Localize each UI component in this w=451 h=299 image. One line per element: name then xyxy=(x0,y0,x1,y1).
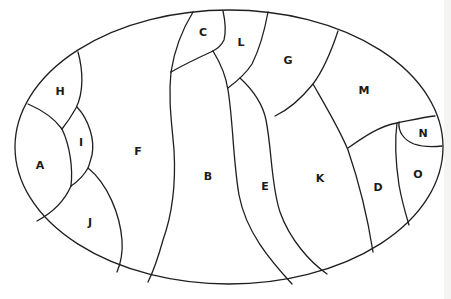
boundary-g-m xyxy=(275,31,338,116)
region-label-o: O xyxy=(413,168,422,181)
boundary-b-e xyxy=(213,51,292,284)
boundary-a-i xyxy=(62,129,72,186)
boundary-h-f xyxy=(62,52,82,129)
diagram-svg: A B C D E F G H I J K L M N O xyxy=(0,0,451,299)
boundary-a-j xyxy=(37,186,71,221)
boundary-c-l xyxy=(213,11,225,51)
region-label-i: I xyxy=(79,136,83,149)
boundary-k-d xyxy=(313,84,373,252)
region-label-h: H xyxy=(55,85,64,98)
region-label-m: M xyxy=(359,84,370,97)
boundary-d-o xyxy=(396,123,409,225)
region-label-d: D xyxy=(373,181,382,194)
region-label-e: E xyxy=(261,180,269,193)
region-label-b: B xyxy=(204,170,212,183)
paper-edge xyxy=(444,0,451,299)
region-label-f: F xyxy=(134,145,142,158)
boundary-f-b xyxy=(148,72,175,282)
boundary-e-k xyxy=(240,78,327,274)
region-label-c: C xyxy=(199,26,207,39)
region-label-l: L xyxy=(237,36,244,49)
boundary-h-a xyxy=(28,104,62,129)
region-label-n: N xyxy=(418,127,427,140)
region-label-g: G xyxy=(283,54,292,67)
region-label-j: J xyxy=(87,216,92,229)
region-map-diagram: A B C D E F G H I J K L M N O xyxy=(0,0,451,299)
boundary-c-b xyxy=(171,51,213,72)
boundary-l-g xyxy=(228,12,268,88)
boundary-c-f xyxy=(171,12,193,72)
region-label-a: A xyxy=(36,159,45,172)
region-label-k: K xyxy=(316,172,325,185)
boundary-j-f xyxy=(88,168,122,272)
